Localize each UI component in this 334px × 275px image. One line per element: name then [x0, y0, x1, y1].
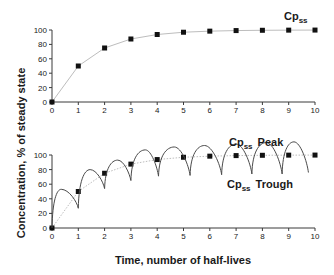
x-tick-label: 3: [129, 106, 134, 115]
trend-line: [52, 30, 315, 102]
x-axis-title: Time, number of half-lives: [115, 254, 251, 266]
x-tick-label: 4: [155, 232, 160, 241]
data-marker: [313, 153, 318, 158]
data-marker: [313, 28, 318, 33]
trend-line: [52, 155, 315, 228]
x-tick-label: 3: [129, 232, 134, 241]
x-tick-label: 2: [102, 106, 107, 115]
data-marker: [234, 153, 239, 158]
bottom-panel: 012345678910020406080100: [34, 142, 320, 241]
x-tick-label: 10: [311, 232, 320, 241]
x-tick-label: 0: [50, 232, 55, 241]
x-tick-label: 7: [234, 232, 239, 241]
x-tick-label: 8: [260, 106, 265, 115]
x-tick-label: 9: [286, 232, 291, 241]
x-tick-label: 6: [208, 232, 213, 241]
top-panel: 012345678910020406080100: [34, 26, 320, 115]
y-tick-label: 40: [38, 195, 47, 204]
x-tick-label: 5: [181, 106, 186, 115]
x-tick-label: 1: [76, 106, 81, 115]
x-tick-label: 6: [208, 106, 213, 115]
data-marker: [50, 100, 55, 105]
x-tick-label: 4: [155, 106, 160, 115]
data-marker: [260, 153, 265, 158]
data-marker: [155, 32, 160, 37]
trough-label: CpssTrough: [227, 178, 293, 193]
data-marker: [181, 30, 186, 35]
y-tick-label: 80: [38, 40, 47, 49]
y-tick-label: 40: [38, 69, 47, 78]
top-cpss-label: Cpss: [284, 10, 308, 25]
x-tick-label: 5: [181, 232, 186, 241]
y-tick-label: 100: [34, 151, 48, 160]
x-tick-label: 2: [102, 232, 107, 241]
x-tick-label: 7: [234, 106, 239, 115]
y-tick-label: 20: [38, 84, 47, 93]
data-marker: [260, 28, 265, 33]
peak-label: CpssPeak: [229, 136, 284, 151]
data-marker: [207, 154, 212, 159]
y-tick-label: 20: [38, 209, 47, 218]
y-tick-label: 0: [43, 224, 48, 233]
y-tick-label: 0: [43, 98, 48, 107]
y-tick-label: 100: [34, 26, 48, 35]
data-marker: [286, 28, 291, 33]
x-tick-label: 10: [311, 106, 320, 115]
data-marker: [128, 37, 133, 42]
data-marker: [155, 157, 160, 162]
y-axis-title: Concentration, % of steady state: [15, 68, 27, 239]
y-tick-label: 60: [38, 180, 47, 189]
data-marker: [207, 29, 212, 34]
y-tick-label: 60: [38, 55, 47, 64]
x-tick-label: 0: [50, 106, 55, 115]
x-tick-label: 8: [260, 232, 265, 241]
data-marker: [234, 28, 239, 33]
chart-svg: 012345678910020406080100 012345678910020…: [0, 0, 334, 275]
chart-container: 012345678910020406080100 012345678910020…: [0, 0, 334, 275]
y-tick-label: 80: [38, 166, 47, 175]
x-tick-label: 1: [76, 232, 81, 241]
x-tick-label: 9: [286, 106, 291, 115]
data-marker: [286, 153, 291, 158]
data-marker: [102, 46, 107, 51]
data-marker: [76, 64, 81, 69]
